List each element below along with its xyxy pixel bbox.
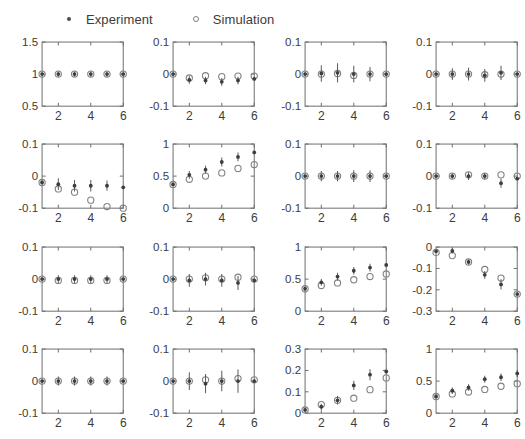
y-tick-label: 0.1	[22, 343, 38, 355]
x-tick-label: 4	[87, 314, 94, 328]
y-tick-label: 0.1	[22, 138, 38, 150]
y-tick-label: -0.3	[412, 305, 432, 317]
x-tick-label: 6	[382, 109, 389, 123]
y-tick-label: 0.1	[153, 36, 169, 48]
x-tick-label: 6	[120, 109, 127, 123]
x-tick-label: 2	[55, 211, 62, 225]
experiment-point	[351, 268, 355, 272]
experiment-point	[450, 72, 454, 76]
x-tick-label: 2	[317, 314, 324, 328]
y-tick-label: 0	[294, 305, 300, 317]
experiment-point	[319, 280, 323, 284]
experiment-point	[56, 277, 60, 281]
experiment-point	[434, 394, 438, 398]
x-tick-label: 6	[382, 211, 389, 225]
y-tick-label: -0.1	[149, 305, 169, 317]
y-tick-label: 0.1	[285, 36, 301, 48]
experiment-point	[434, 249, 438, 253]
experiment-point	[450, 174, 454, 178]
simulation-point	[498, 172, 504, 178]
experiment-point	[483, 73, 487, 77]
simulation-point	[203, 173, 209, 179]
y-tick-label: 0	[32, 375, 38, 387]
y-tick-label: -0.1	[149, 407, 169, 419]
panel-r4c2: -0.100.1246	[131, 337, 262, 439]
experiment-point	[335, 274, 339, 278]
experiment-point	[121, 379, 125, 383]
legend-label-experiment: Experiment	[86, 12, 153, 27]
panel-r4c4: 00.51246	[394, 337, 525, 439]
experiment-point	[515, 177, 519, 181]
y-tick-label: 0.1	[153, 343, 169, 355]
axis-box	[436, 144, 517, 208]
experiment-point	[515, 72, 519, 76]
experiment-point	[434, 72, 438, 76]
x-tick-label: 6	[514, 314, 521, 328]
chart-legend: Experiment Simulation	[0, 6, 525, 32]
experiment-point	[368, 373, 372, 377]
experiment-point	[368, 174, 372, 178]
experiment-point	[89, 184, 93, 188]
experiment-point	[303, 286, 307, 290]
experiment-point	[384, 263, 388, 267]
y-tick-label: -0.2	[412, 283, 432, 295]
experiment-point	[220, 80, 224, 84]
experiment-point	[236, 379, 240, 383]
x-tick-label: 4	[219, 109, 226, 123]
simulation-point	[350, 276, 356, 282]
x-tick-label: 6	[514, 109, 521, 123]
axis-box	[305, 247, 386, 311]
y-tick-label: 0	[163, 202, 169, 214]
experiment-point	[73, 72, 77, 76]
axis-box	[436, 349, 517, 413]
x-tick-label: 2	[186, 211, 193, 225]
panel-r3c3: 00.51246	[263, 235, 394, 337]
experiment-point	[56, 379, 60, 383]
x-tick-label: 4	[350, 416, 357, 430]
y-tick-label: 0.1	[285, 138, 301, 150]
x-tick-label: 6	[120, 211, 127, 225]
x-tick-label: 4	[481, 109, 488, 123]
simulation-point	[88, 197, 94, 203]
simulation-point	[235, 166, 241, 172]
experiment-point	[236, 281, 240, 285]
experiment-point	[384, 72, 388, 76]
experiment-point	[204, 79, 208, 83]
experiment-point	[483, 377, 487, 381]
axis-box	[42, 349, 123, 413]
experiment-point	[40, 72, 44, 76]
subplot-grid: 0.511.5246-0.100.1246-0.100.1246-0.100.1…	[0, 30, 525, 439]
y-tick-label: 0.3	[285, 343, 301, 355]
open-circle-icon	[189, 16, 203, 22]
x-tick-label: 2	[317, 211, 324, 225]
x-tick-label: 4	[481, 416, 488, 430]
experiment-point	[466, 72, 470, 76]
experiment-point	[121, 186, 125, 190]
x-tick-label: 6	[382, 416, 389, 430]
panel-r3c1: -0.100.1246	[0, 235, 131, 337]
experiment-point	[335, 398, 339, 402]
experiment-point	[466, 174, 470, 178]
y-tick-label: -0.1	[18, 407, 38, 419]
panel-r4c3: 00.10.20.3246	[263, 337, 394, 439]
axis-box	[173, 247, 254, 311]
y-tick-label: -0.1	[149, 100, 169, 112]
x-tick-label: 2	[55, 109, 62, 123]
y-tick-label: 0.1	[416, 138, 432, 150]
x-tick-label: 4	[87, 416, 94, 430]
x-tick-label: 4	[481, 314, 488, 328]
axis-box	[436, 247, 517, 311]
y-tick-label: -0.1	[281, 100, 301, 112]
experiment-point	[56, 72, 60, 76]
experiment-point	[368, 72, 372, 76]
experiment-point	[188, 379, 192, 383]
panel-r1c3: -0.100.1246	[263, 30, 394, 132]
simulation-point	[104, 204, 110, 210]
legend-label-simulation: Simulation	[213, 12, 275, 27]
experiment-point	[89, 72, 93, 76]
panel-r4c1: -0.100.1246	[0, 337, 131, 439]
y-tick-label: 1	[425, 343, 431, 355]
x-tick-label: 6	[382, 314, 389, 328]
legend-entry-simulation: Simulation	[189, 12, 275, 27]
experiment-point	[171, 183, 175, 187]
